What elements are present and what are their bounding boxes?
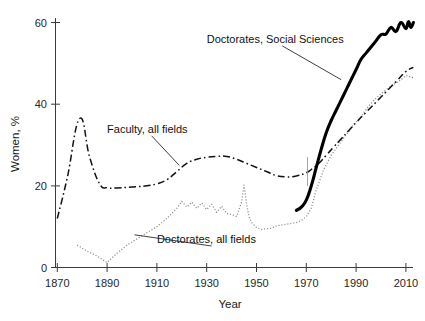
x-tick-label-1910: 1910 xyxy=(145,277,169,289)
x-tick-label-1890: 1890 xyxy=(95,277,119,289)
x-tick-label-1870: 1870 xyxy=(45,277,69,289)
leader-line-faculty-all-fields xyxy=(152,136,180,166)
y-tick-label-60: 60 xyxy=(35,17,47,29)
x-axis-title: Year xyxy=(218,298,241,310)
y-tick-label-40: 40 xyxy=(35,98,47,110)
x-tick-label-2010: 2010 xyxy=(394,277,418,289)
x-tick-label-1990: 1990 xyxy=(344,277,368,289)
y-axis-title: Women, % xyxy=(9,116,21,172)
x-tick-label-1950: 1950 xyxy=(244,277,268,289)
series-label-doctorates-social-sciences: Doctorates, Social Sciences xyxy=(207,33,344,45)
series-line-doctorates-social-sciences xyxy=(296,22,413,211)
line-chart-svg: 60 40 20 0 1870 1890 1910 1930 1950 1970… xyxy=(0,0,425,321)
series-label-faculty-all-fields: Faculty, all fields xyxy=(107,123,188,135)
series-line-faculty-all-fields xyxy=(57,67,413,218)
y-tick-label-20: 20 xyxy=(35,180,47,192)
x-tick-label-1970: 1970 xyxy=(294,277,318,289)
series-label-doctorates-all-fields: Doctorates, all fields xyxy=(157,233,257,245)
chart-container: 60 40 20 0 1870 1890 1910 1930 1950 1970… xyxy=(0,0,425,321)
x-tick-label-1930: 1930 xyxy=(194,277,218,289)
y-tick-label-0: 0 xyxy=(41,262,47,274)
leader-line-doctorates-social-sciences xyxy=(282,46,341,80)
